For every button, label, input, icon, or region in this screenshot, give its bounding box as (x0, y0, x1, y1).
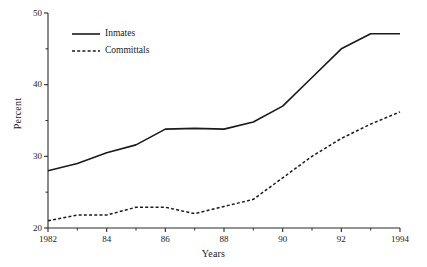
y-axis-tick-label: 50 (14, 9, 42, 18)
legend-label-inmates: Inmates (105, 29, 135, 39)
x-axis-tick-label: 92 (321, 235, 361, 244)
y-axis-title: Percent (12, 86, 23, 142)
y-axis-ticks (44, 13, 48, 228)
x-axis-tick-label: 84 (87, 235, 127, 244)
x-axis-tick-label: 1994 (380, 235, 420, 244)
x-axis-title: Years (0, 248, 427, 259)
y-axis-tick-label: 20 (14, 224, 42, 233)
x-axis-tick-label: 1982 (28, 235, 68, 244)
series-line-inmates (48, 34, 400, 171)
y-axis-tick-label: 30 (14, 152, 42, 161)
chart-figure: Percent Years 20304050 19828486889092199… (0, 0, 427, 267)
series-line-committals (48, 112, 400, 221)
x-axis-tick-label: 88 (204, 235, 244, 244)
x-axis-ticks (48, 228, 400, 232)
y-axis-tick-label: 40 (14, 80, 42, 89)
x-axis-tick-label: 86 (145, 235, 185, 244)
legend-label-committals: Committals (105, 46, 149, 56)
line-chart-canvas (0, 0, 427, 267)
x-axis-tick-label: 90 (263, 235, 303, 244)
data-series-group (48, 34, 400, 221)
legend-line-samples (72, 34, 100, 51)
